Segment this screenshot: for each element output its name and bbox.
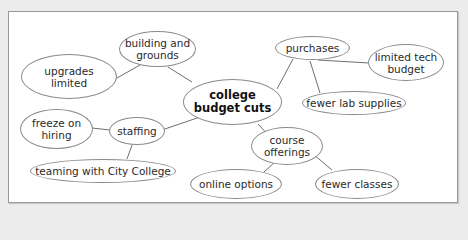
- node-building-and-grounds: building and grounds: [119, 31, 196, 67]
- node-fewer-classes: fewer classes: [315, 169, 399, 199]
- node-upgrades-limited: upgrades limited: [21, 54, 117, 99]
- edge-center-building: [168, 67, 192, 82]
- edge-staffing-teaming: [127, 145, 132, 159]
- node-college-budget-cuts: college budget cuts: [183, 79, 282, 125]
- node-fewer-lab-supplies: fewer lab supplies: [302, 91, 406, 115]
- edge-staffing-freeze: [92, 128, 110, 130]
- node-course-offerings: course offerings: [251, 127, 323, 165]
- node-purchases: purchases: [275, 36, 350, 60]
- edge-purchases-labsupplies: [310, 61, 320, 93]
- edge-building-upgrades: [117, 65, 140, 78]
- node-staffing: staffing: [109, 117, 165, 145]
- node-limited-tech-budget: limited tech budget: [368, 44, 444, 81]
- edge-center-staffing: [159, 117, 200, 131]
- node-freeze-on-hiring: freeze on hiring: [20, 109, 93, 149]
- edge-purchases-techbudget: [318, 60, 369, 63]
- node-teaming-with-city-college: teaming with City College: [30, 159, 176, 183]
- edge-center-purchases: [277, 59, 293, 89]
- node-online-options: online options: [190, 169, 282, 199]
